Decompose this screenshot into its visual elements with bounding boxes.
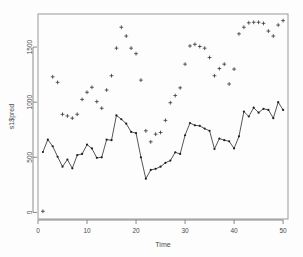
- data-point: [66, 158, 68, 160]
- data-point: [218, 137, 220, 139]
- data-point: [257, 112, 259, 114]
- data-point: [189, 122, 191, 124]
- data-point: [71, 167, 73, 169]
- data-point: [47, 139, 49, 141]
- x-tick-label: 20: [132, 227, 140, 234]
- data-point: [125, 123, 127, 125]
- data-point: [164, 162, 166, 164]
- data-point: [267, 109, 269, 111]
- data-point: [184, 134, 186, 136]
- x-tick-label: 30: [181, 227, 189, 234]
- data-point: [272, 117, 274, 119]
- data-point: [135, 132, 137, 134]
- data-point: [233, 147, 235, 149]
- data-point: [277, 101, 279, 103]
- data-point: [52, 145, 54, 147]
- data-point: [282, 109, 284, 111]
- data-point: [243, 110, 245, 112]
- data-point: [150, 169, 152, 171]
- data-point: [96, 157, 98, 159]
- data-point: [76, 154, 78, 156]
- data-point: [115, 114, 117, 116]
- data-point: [130, 131, 132, 133]
- data-point: [204, 128, 206, 130]
- data-point: [106, 139, 108, 141]
- data-point: [61, 166, 63, 168]
- x-tick-label: 50: [279, 227, 287, 234]
- y-axis-title: s1$pred: [8, 104, 16, 129]
- chart-figure: 01020304050 050010001500 Time s1$pred: [0, 0, 303, 257]
- data-point: [145, 178, 147, 180]
- data-point: [248, 115, 250, 117]
- data-point: [169, 159, 171, 161]
- data-point: [101, 156, 103, 158]
- data-point: [81, 153, 83, 155]
- data-point: [253, 107, 255, 109]
- data-point: [228, 140, 230, 142]
- scatter-line-plot: 01020304050 050010001500 Time s1$pred: [0, 0, 303, 257]
- y-tick-label: 1000: [26, 95, 33, 110]
- data-point: [238, 135, 240, 137]
- x-axis-title: Time: [155, 241, 170, 248]
- x-tick-label: 40: [230, 227, 238, 234]
- y-tick-label: 500: [26, 151, 33, 162]
- data-point: [174, 151, 176, 153]
- data-point: [199, 125, 201, 127]
- data-point: [262, 108, 264, 110]
- x-tick-label: 10: [83, 227, 91, 234]
- data-point: [86, 144, 88, 146]
- figure-background: [0, 0, 303, 257]
- x-tick-label: 0: [36, 227, 40, 234]
- data-point: [208, 130, 210, 132]
- data-point: [194, 124, 196, 126]
- data-point: [57, 156, 59, 158]
- data-point: [213, 148, 215, 150]
- data-point: [179, 153, 181, 155]
- data-point: [110, 139, 112, 141]
- data-point: [155, 168, 157, 170]
- data-point: [140, 156, 142, 158]
- data-point: [223, 139, 225, 141]
- data-point: [120, 118, 122, 120]
- data-point: [91, 147, 93, 149]
- y-tick-label: 1500: [26, 39, 33, 54]
- data-point: [159, 166, 161, 168]
- data-point: [42, 151, 44, 153]
- y-tick-label: 0: [26, 210, 33, 214]
